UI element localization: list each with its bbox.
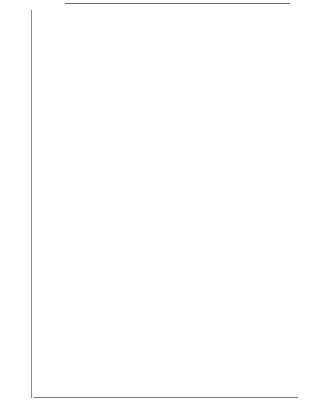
box-plot-area [0,0,310,413]
